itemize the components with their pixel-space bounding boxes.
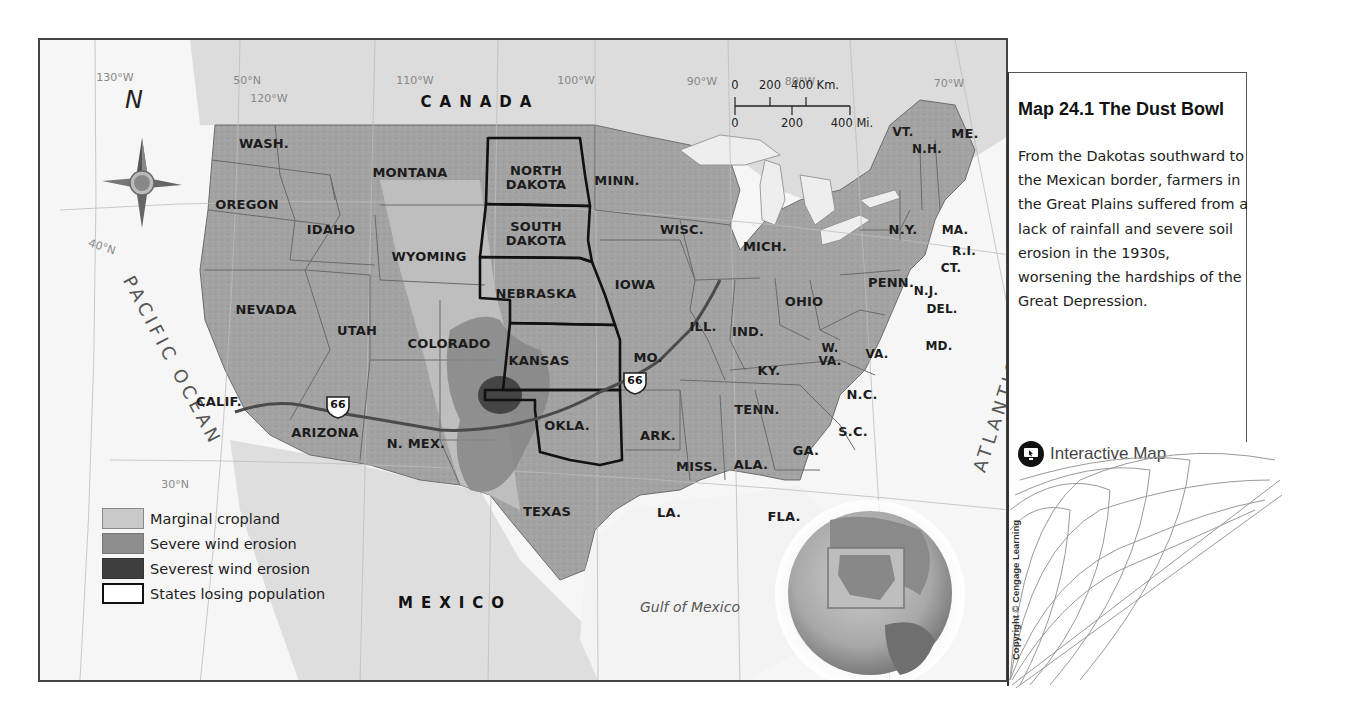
legend-item-states-losing-population: States losing population (102, 581, 325, 606)
state-label-new-york: N.Y. (889, 223, 918, 237)
state-label-arizona: ARIZONA (291, 426, 359, 440)
legend-swatch (102, 533, 144, 554)
state-label-virginia: VA. (865, 348, 888, 361)
interactive-map-label: Interactive Map (1050, 444, 1166, 464)
state-label-mississippi: MISS. (676, 460, 718, 474)
caption-title: Map 24.1 The Dust Bowl (1018, 99, 1243, 119)
state-label-kansas: KANSAS (508, 354, 569, 368)
state-label-california: CALIF. (196, 395, 242, 409)
gulf-of-mexico-label: Gulf of Mexico (640, 599, 740, 615)
copyright-notice: Copyright © Cengage Learning (1010, 520, 1021, 660)
state-label-vermont: VT. (893, 126, 914, 139)
globe-inset (775, 500, 965, 682)
interactive-map-link[interactable]: Interactive Map (1018, 441, 1166, 467)
legend-label: Severest wind erosion (150, 561, 310, 577)
state-label-connecticut: CT. (941, 262, 961, 275)
state-label-florida: FLA. (767, 510, 800, 524)
country-label-mexico: MEXICO (398, 594, 512, 612)
state-label-rhode-island: R.I. (952, 245, 976, 258)
state-label-nebraska: NEBRASKA (496, 287, 577, 301)
state-label-iowa: IOWA (615, 278, 656, 292)
state-label-utah: UTAH (337, 324, 377, 338)
state-label-oregon: OREGON (215, 198, 279, 212)
state-label-alabama: ALA. (734, 458, 768, 472)
country-label-canada: CANADA (421, 93, 540, 111)
state-label-ohio: OHIO (785, 295, 824, 309)
state-label-louisiana: LA. (657, 506, 681, 520)
state-label-tennessee: TENN. (734, 403, 779, 417)
state-label-maryland: MD. (925, 340, 952, 353)
state-label-texas: TEXAS (523, 505, 571, 519)
state-label-colorado: COLORADO (408, 337, 491, 351)
legend-item-severest-wind-erosion: Severest wind erosion (102, 556, 325, 581)
legend-label: States losing population (150, 586, 325, 602)
monitor-cursor-icon (1018, 441, 1044, 467)
state-label-new-jersey: N.J. (914, 285, 938, 298)
route-shield-number: 66 (325, 398, 351, 411)
legend-item-marginal-cropland: Marginal cropland (102, 506, 325, 531)
map-frame: 130°W 50°N 120°W 110°W 100°W 90°W 80°W 7… (38, 38, 1008, 682)
state-label-washington: WASH. (239, 137, 289, 151)
grid-label: 70°W (934, 77, 964, 90)
state-label-wyoming: WYOMING (391, 250, 466, 264)
legend-label: Severe wind erosion (150, 536, 297, 552)
state-label-idaho: IDAHO (307, 223, 356, 237)
state-label-minnesota: MINN. (594, 174, 639, 188)
state-label-illinois: ILL. (689, 320, 716, 334)
state-label-indiana: IND. (732, 325, 764, 339)
state-label-maine: ME. (951, 127, 978, 141)
route-66-shield-icon: 66 (325, 395, 351, 419)
route-66-shield-icon: 66 (622, 371, 648, 395)
state-label-pennsylvania: PENN. (868, 276, 914, 290)
route-shield-number: 66 (622, 374, 648, 387)
state-label-oklahoma: OKLA. (544, 419, 590, 433)
state-label-west-virginia: W. VA. (818, 342, 841, 367)
grid-label: 100°W (557, 74, 594, 87)
grid-label: 130°W (96, 71, 133, 84)
scale-km-tick: 0 (731, 78, 738, 92)
grid-label: 110°W (396, 74, 433, 87)
state-label-new-hampshire: N.H. (912, 143, 942, 156)
state-label-north-carolina: N.C. (846, 388, 877, 402)
state-label-massachusetts: MA. (942, 224, 969, 237)
grid-label: 30°N (161, 478, 189, 491)
grid-label: 50°N (233, 74, 261, 87)
state-label-georgia: GA. (793, 444, 820, 458)
state-label-michigan: MICH. (743, 240, 787, 254)
caption-body: From the Dakotas southward to the Mexica… (1018, 144, 1248, 313)
legend-label: Marginal cropland (150, 511, 280, 527)
legend-item-severe-wind-erosion: Severe wind erosion (102, 531, 325, 556)
state-label-montana: MONTANA (372, 166, 447, 180)
grid-label: 90°W (687, 75, 717, 88)
scale-mi-tick: 400 Mi. (831, 116, 873, 130)
state-label-south-carolina: S.C. (838, 425, 868, 439)
state-label-south-dakota: SOUTH DAKOTA (506, 220, 567, 247)
state-label-wisconsin: WISC. (660, 223, 704, 237)
legend-swatch (102, 558, 144, 579)
scale-bar: 0 200 400 Km. 0 200 400 Mi. (730, 76, 870, 146)
scale-mi-tick: 200 (781, 116, 803, 130)
scale-km-tick: 400 Km. (791, 78, 839, 92)
legend-swatch (102, 583, 144, 604)
scale-km-tick: 200 (759, 78, 781, 92)
state-label-north-dakota: NORTH DAKOTA (506, 164, 567, 191)
state-label-arkansas: ARK. (640, 429, 676, 443)
state-label-nevada: NEVADA (235, 303, 296, 317)
map-legend: Marginal cropland Severe wind erosion Se… (102, 506, 325, 606)
compass-north-label: N (125, 88, 143, 113)
scale-mi-tick: 0 (731, 116, 738, 130)
grid-label: 120°W (250, 92, 287, 105)
state-label-delaware: DEL. (926, 303, 957, 316)
state-label-missouri: MO. (633, 351, 662, 365)
legend-swatch (102, 508, 144, 529)
state-label-new-mexico: N. MEX. (387, 437, 446, 451)
state-label-kentucky: KY. (758, 364, 781, 378)
